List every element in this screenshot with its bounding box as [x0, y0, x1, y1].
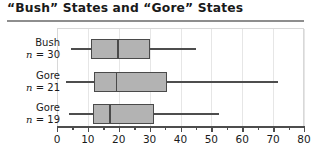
row-label-name: Gore — [26, 102, 60, 114]
row-label-count: n = 21 — [26, 82, 60, 94]
box-iqr — [91, 39, 150, 59]
x-tick-major — [88, 126, 89, 132]
x-tick-label: 40 — [174, 133, 187, 145]
gridline — [181, 29, 182, 126]
x-tick-minor — [165, 126, 166, 130]
gridline — [304, 29, 305, 126]
gridline — [211, 29, 212, 126]
box-iqr — [94, 72, 167, 92]
x-tick-label: 80 — [297, 133, 310, 145]
row-label-gore-21: Goren = 21 — [26, 70, 60, 93]
x-tick-major — [211, 126, 212, 132]
title-divider — [7, 20, 304, 22]
x-tick-label: 30 — [143, 133, 156, 145]
gridline — [242, 29, 243, 126]
boxplot-figure: “Bush” States and “Gore” States Bushn = … — [0, 0, 319, 151]
row-label-count: n = 19 — [26, 114, 60, 126]
chart-title: “Bush” States and “Gore” States — [7, 1, 243, 15]
row-label-name: Gore — [26, 70, 60, 82]
x-tick-label: 0 — [54, 133, 61, 145]
row-label-bush-30: Bushn = 30 — [26, 37, 60, 60]
x-tick-major — [304, 126, 305, 132]
gridline — [273, 29, 274, 126]
x-tick-major — [119, 126, 120, 132]
x-tick-major — [242, 126, 243, 132]
x-tick-label: 10 — [81, 133, 94, 145]
x-tick-label: 20 — [112, 133, 125, 145]
x-tick-minor — [227, 126, 228, 130]
x-tick-minor — [134, 126, 135, 130]
x-tick-major — [273, 126, 274, 132]
x-tick-major — [150, 126, 151, 132]
median-line — [117, 39, 119, 59]
x-tick-label: 70 — [266, 133, 279, 145]
x-tick-minor — [72, 126, 73, 130]
median-line — [109, 104, 111, 124]
x-tick-label: 50 — [205, 133, 218, 145]
row-label-name: Bush — [26, 37, 60, 49]
x-tick-minor — [196, 126, 197, 130]
x-tick-minor — [258, 126, 259, 130]
box-iqr — [93, 104, 155, 124]
row-label-count: n = 30 — [26, 49, 60, 61]
row-label-gore-19: Goren = 19 — [26, 102, 60, 125]
x-tick-minor — [103, 126, 104, 130]
x-tick-minor — [289, 126, 290, 130]
x-tick-major — [57, 126, 58, 132]
gridline — [88, 29, 89, 126]
x-tick-major — [181, 126, 182, 132]
x-tick-label: 60 — [236, 133, 249, 145]
median-line — [116, 72, 118, 92]
